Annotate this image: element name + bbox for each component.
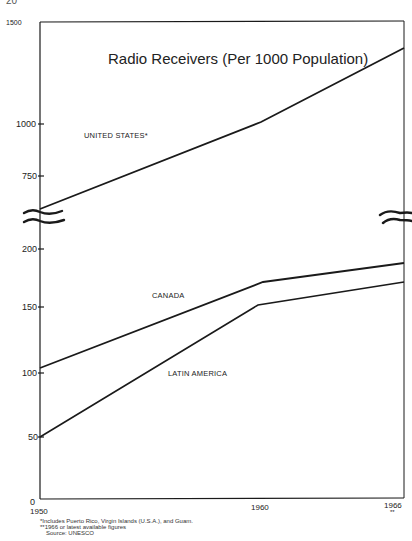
y-tick-150: 150	[22, 302, 37, 312]
y-tick-50: 50	[28, 432, 38, 442]
series-label-latin-america: LATIN AMERICA	[168, 369, 227, 378]
y-tick-1500: 1500	[6, 19, 22, 26]
x-tick-1966-note: **	[390, 509, 395, 515]
line-chart: 1500 1000 750 200 150 100 50 0 1950 1960…	[0, 0, 412, 541]
y-axis-ticks	[38, 124, 44, 437]
y-tick-0: 0	[30, 497, 35, 507]
series-label-canada: CANADA	[152, 291, 184, 300]
series-line-united-states	[40, 48, 404, 209]
axis-break-right-icon	[380, 211, 412, 223]
series-label-united-states: UNITED STATES*	[84, 131, 148, 140]
y-tick-100: 100	[22, 368, 37, 378]
y-tick-200: 200	[22, 244, 37, 254]
chart-title: Radio Receivers (Per 1000 Population)	[108, 50, 368, 67]
y-tick-1000: 1000	[16, 119, 36, 129]
plot-frame	[40, 21, 404, 499]
x-tick-1960: 1960	[251, 503, 269, 512]
x-tick-1950: 1950	[30, 507, 48, 516]
y-tick-750: 750	[22, 171, 37, 181]
axis-break-left-icon	[24, 210, 64, 223]
series-line-canada	[40, 263, 404, 368]
series-line-latin-america	[40, 282, 404, 437]
footnote-source: Source: UNESCO	[46, 530, 94, 537]
